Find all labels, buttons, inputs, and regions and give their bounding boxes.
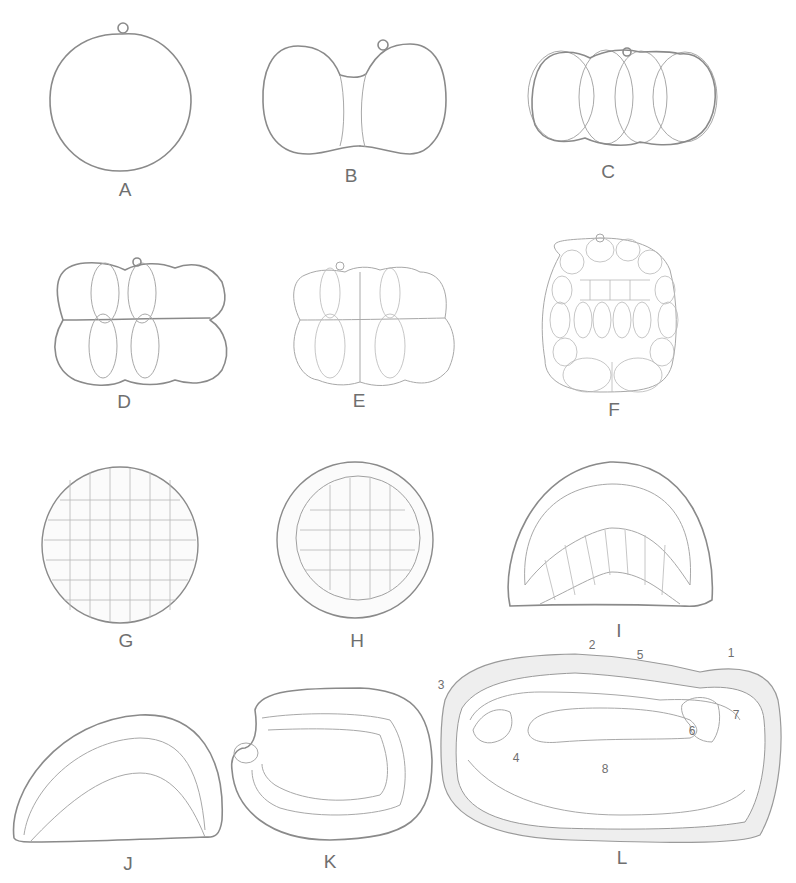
embryo-development-figure <box>0 0 796 883</box>
panel-l-drawing <box>441 654 781 842</box>
panel-g-drawing <box>42 467 198 623</box>
panel-label-e: E <box>353 390 366 412</box>
panel-k-drawing <box>232 688 432 840</box>
panel-label-f: F <box>608 399 620 421</box>
panel-h-drawing <box>277 462 433 618</box>
panel-e-drawing <box>294 262 454 386</box>
panel-c-drawing <box>528 48 717 145</box>
panel-d-drawing <box>55 258 227 385</box>
annotation-8: 8 <box>602 762 609 776</box>
panel-b-drawing <box>263 40 446 154</box>
annotation-5: 5 <box>637 648 644 662</box>
panel-i-drawing <box>508 462 712 606</box>
panel-label-c: C <box>601 161 615 183</box>
panel-label-l: L <box>617 847 628 869</box>
panel-j-drawing <box>14 715 223 842</box>
panel-label-k: K <box>324 851 337 873</box>
panel-label-d: D <box>117 391 131 413</box>
panel-a-drawing <box>50 23 191 171</box>
annotation-1: 1 <box>728 646 735 660</box>
panel-label-h: H <box>350 630 364 652</box>
panel-label-j: J <box>123 853 133 875</box>
annotation-4: 4 <box>513 751 520 765</box>
annotation-3: 3 <box>438 678 445 692</box>
panel-f-drawing <box>542 234 678 392</box>
panel-label-a: A <box>119 179 132 201</box>
annotation-7: 7 <box>733 708 740 722</box>
annotation-6: 6 <box>689 724 696 738</box>
panel-label-b: B <box>345 165 358 187</box>
annotation-2: 2 <box>589 638 596 652</box>
panel-label-i: I <box>616 620 621 642</box>
panel-label-g: G <box>119 630 134 652</box>
